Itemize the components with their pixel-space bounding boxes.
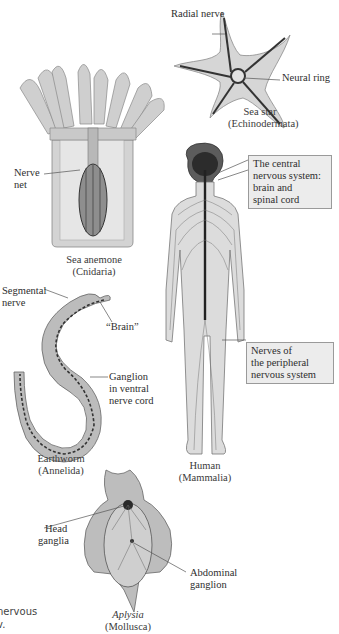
head-ganglia-label-line2: ganglia: [38, 535, 69, 547]
sea-anemone-phylum: (Cnidaria): [56, 266, 132, 278]
pns-line-3: nervous system: [251, 369, 329, 381]
ganglion-label-line1: Ganglion: [109, 371, 148, 383]
cns-line-4: spinal cord: [253, 194, 327, 206]
nerve-net-label-line2: net: [14, 179, 27, 191]
brain-label: “Brain”: [106, 321, 139, 333]
sea-anemone-name: Sea anemone: [56, 254, 132, 266]
sea-star-phylum: (Echinodermata): [228, 118, 292, 130]
pns-line-1: Nerves of: [251, 345, 329, 357]
cns-line-3: brain and: [253, 182, 327, 194]
cns-line-2: nervous system:: [253, 170, 327, 182]
ganglion-label-line3: nerve cord: [109, 395, 154, 407]
segmental-nerve-label-line2: nerve: [2, 297, 25, 309]
ganglion-label-line2: in ventral: [109, 383, 149, 395]
neural-ring-label: Neural ring: [282, 72, 330, 84]
earthworm-phylum: (Annelida): [30, 465, 92, 477]
aplysia-phylum: (Mollusca): [98, 621, 158, 633]
nerve-net-label-line1: Nerve: [14, 167, 40, 179]
earthworm-caption: Earthworm (Annelida): [30, 453, 92, 477]
sea-anemone-caption: Sea anemone (Cnidaria): [56, 254, 132, 278]
cns-line-1: The central: [253, 158, 327, 170]
aplysia-caption: Aplysia (Mollusca): [98, 609, 158, 633]
earthworm-name: Earthworm: [30, 453, 92, 465]
head-ganglia-label-line1: Head: [45, 523, 67, 535]
sea-star-caption: Sea star (Echinodermata): [228, 106, 292, 130]
abdominal-ganglion-label-line2: ganglion: [190, 579, 227, 591]
human-phylum: (Mammalia): [174, 472, 236, 484]
side-caption-line1: nervous: [0, 605, 37, 618]
cns-label-box: The central nervous system: brain and sp…: [248, 155, 332, 209]
abdominal-ganglion-label-line1: Abdominal: [190, 567, 237, 579]
segmental-nerve-label-line1: Segmental: [2, 285, 46, 297]
human-caption: Human (Mammalia): [174, 460, 236, 484]
sea-anemone-illustration: [20, 64, 164, 247]
radial-nerve-label: Radial nerve: [171, 8, 224, 20]
human-illustration: [166, 143, 248, 454]
earthworm-illustration: [14, 289, 112, 462]
pns-label-box: Nerves of the peripheral nervous system: [246, 342, 334, 384]
sea-star-name: Sea star: [228, 106, 292, 118]
pns-line-2: the peripheral: [251, 357, 329, 369]
side-caption-line2: v.: [0, 618, 5, 631]
human-name: Human: [174, 460, 236, 472]
aplysia-name: Aplysia: [98, 609, 158, 621]
